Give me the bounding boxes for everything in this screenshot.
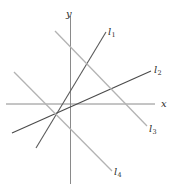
- line-label-l1: l1: [108, 27, 115, 37]
- line-diagram-figure: y x l1 l2 l3 l4: [0, 0, 177, 193]
- axes-group: [6, 16, 155, 184]
- lines-group: [12, 31, 151, 171]
- line-label-l2: l2: [154, 65, 161, 75]
- line-label-l4: l4: [114, 167, 121, 177]
- x-axis-label: x: [161, 99, 167, 109]
- line-l2: [12, 71, 151, 133]
- y-axis-label: y: [66, 9, 72, 19]
- line-l4: [14, 72, 112, 171]
- diagram-canvas: [0, 0, 177, 193]
- line-label-l3: l3: [149, 124, 156, 134]
